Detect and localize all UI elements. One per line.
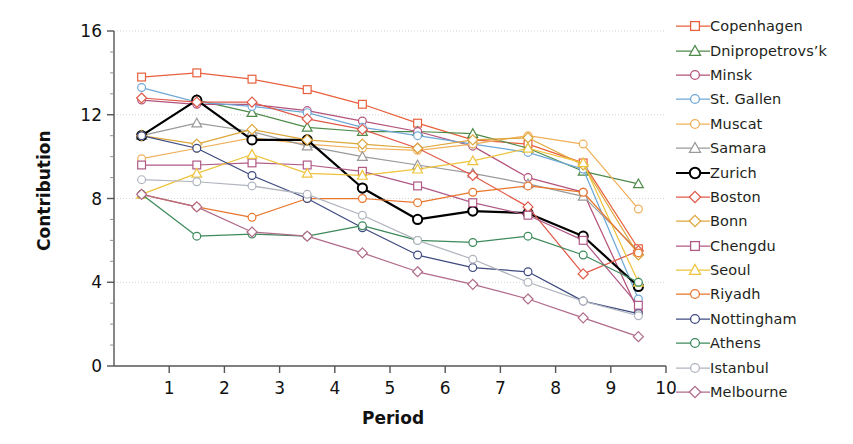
data-point-marker: [579, 297, 587, 305]
legend-item-zurich[interactable]: Zurich: [676, 160, 853, 184]
data-point-marker: [359, 211, 367, 219]
y-tick-label: 12: [80, 105, 102, 125]
diamond-marker-icon: [676, 186, 710, 208]
square-marker-icon: [676, 15, 710, 37]
data-point-marker: [524, 278, 532, 286]
series-line: [142, 194, 639, 336]
series-nottingham: [138, 132, 643, 318]
legend-item-dnipropetrovs-k[interactable]: Dnipropetrovs’k: [676, 38, 853, 62]
x-tick-label: 3: [274, 378, 285, 398]
data-point-marker: [414, 199, 422, 207]
legend-item-seoul[interactable]: Seoul: [676, 258, 853, 282]
data-point-marker: [689, 216, 700, 227]
legend-item-st-gallen[interactable]: St. Gallen: [676, 87, 853, 111]
data-point-marker: [579, 188, 587, 196]
legend-label: Muscat: [710, 116, 762, 132]
legend-label: Minsk: [710, 67, 752, 83]
legend-item-boston[interactable]: Boston: [676, 185, 853, 209]
data-point-marker: [302, 231, 312, 241]
data-point-marker: [192, 118, 202, 127]
legend-item-minsk[interactable]: Minsk: [676, 63, 853, 87]
data-point-marker: [248, 182, 256, 190]
data-point-marker: [359, 195, 367, 203]
data-point-marker: [469, 255, 477, 263]
square-marker-icon: [676, 235, 710, 257]
data-point-marker: [691, 95, 700, 104]
data-point-marker: [248, 213, 256, 221]
series-line: [142, 194, 639, 282]
legend-item-riyadh[interactable]: Riyadh: [676, 282, 853, 306]
data-point-marker: [579, 251, 587, 259]
data-point-marker: [469, 264, 477, 272]
legend-label: Zurich: [710, 165, 757, 181]
data-point-marker: [691, 339, 700, 348]
data-point-marker: [689, 191, 700, 202]
legend-label: Riyadh: [710, 286, 761, 302]
data-point-marker: [138, 161, 146, 169]
series-line: [142, 136, 639, 314]
legend-item-istanbul[interactable]: Istanbul: [676, 355, 853, 379]
legend-item-samara[interactable]: Samara: [676, 136, 853, 160]
legend-item-athens[interactable]: Athens: [676, 331, 853, 355]
legend-label: Melbourne: [710, 384, 787, 400]
circle-marker-icon: [676, 332, 710, 354]
legend-item-bonn[interactable]: Bonn: [676, 209, 853, 233]
data-point-marker: [691, 363, 700, 372]
data-point-marker: [358, 183, 367, 192]
x-tick-label: 4: [329, 378, 340, 398]
data-point-marker: [138, 73, 146, 81]
legend-label: Bonn: [710, 213, 748, 229]
series-line: [142, 163, 639, 305]
x-tick-label: 5: [385, 378, 396, 398]
data-point-marker: [524, 268, 532, 276]
triangle-marker-icon: [676, 40, 710, 62]
y-tick-label: 4: [91, 272, 102, 292]
data-point-marker: [414, 251, 422, 259]
chart-screenshot: 048121612345678910 Contribution Period C…: [0, 0, 853, 444]
data-point-marker: [138, 84, 146, 92]
legend-item-copenhagen[interactable]: Copenhagen: [676, 14, 853, 38]
legend-label: Boston: [710, 189, 761, 205]
triangle-marker-icon: [676, 259, 710, 281]
circle-marker-icon: [676, 113, 710, 135]
data-point-marker: [635, 278, 643, 286]
data-point-marker: [469, 199, 477, 207]
chart-legend: CopenhagenDnipropetrovs’kMinskSt. Gallen…: [676, 14, 853, 404]
data-point-marker: [691, 22, 700, 31]
plot-svg: 048121612345678910: [0, 0, 680, 444]
legend-label: Dnipropetrovs’k: [710, 43, 827, 59]
data-point-marker: [633, 332, 643, 342]
data-point-marker: [359, 100, 367, 108]
data-point-marker: [303, 190, 311, 198]
data-point-marker: [635, 301, 643, 309]
y-tick-label: 0: [91, 356, 102, 376]
data-point-marker: [635, 205, 643, 213]
data-point-marker: [414, 236, 422, 244]
series-istanbul: [138, 176, 643, 320]
data-point-marker: [468, 170, 478, 180]
circle-marker-icon: [676, 283, 710, 305]
data-point-marker: [579, 236, 587, 244]
legend-label: Nottingham: [710, 311, 797, 327]
data-point-marker: [413, 215, 422, 224]
data-point-marker: [469, 239, 477, 247]
legend-item-melbourne[interactable]: Melbourne: [676, 380, 853, 404]
data-point-marker: [193, 178, 201, 186]
data-point-marker: [414, 132, 422, 140]
series-line: [142, 100, 639, 286]
data-point-marker: [579, 140, 587, 148]
x-tick-label: 7: [495, 378, 506, 398]
circle-marker-icon: [676, 64, 710, 86]
data-point-marker: [690, 167, 700, 177]
data-point-marker: [691, 314, 700, 323]
data-point-marker: [635, 312, 643, 320]
y-tick-label: 8: [91, 189, 102, 209]
data-point-marker: [357, 248, 367, 258]
diamond-marker-icon: [676, 210, 710, 232]
legend-item-nottingham[interactable]: Nottingham: [676, 307, 853, 331]
data-point-marker: [247, 135, 256, 144]
x-tick-label: 8: [550, 378, 561, 398]
legend-label: Seoul: [710, 262, 751, 278]
legend-item-chengdu[interactable]: Chengdu: [676, 234, 853, 258]
legend-item-muscat[interactable]: Muscat: [676, 112, 853, 136]
